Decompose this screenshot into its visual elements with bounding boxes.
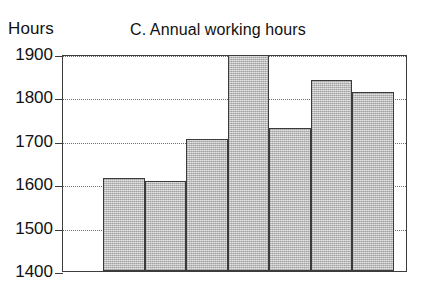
y-axis-unit-label: Hours bbox=[8, 19, 54, 39]
bar: Poland bbox=[311, 80, 353, 271]
bar-category-label: Finland bbox=[272, 164, 290, 271]
plot-area: GermanyFranceUKUSAFinlandPolandJapan bbox=[62, 55, 407, 272]
bar: Finland bbox=[269, 128, 311, 271]
bar-category-label: France bbox=[147, 164, 165, 271]
bar-category-label: USA bbox=[230, 164, 248, 271]
bar-category-label: Poland bbox=[313, 164, 331, 271]
y-axis-tick-label: 1900 bbox=[15, 45, 53, 65]
y-axis-tick-label: 1500 bbox=[15, 219, 53, 239]
y-axis-tick-label: 1600 bbox=[15, 175, 53, 195]
y-axis-tick bbox=[55, 56, 63, 57]
chart-title: C. Annual working hours bbox=[130, 21, 306, 39]
bar: Japan bbox=[352, 92, 394, 271]
bar-category-label: Germany bbox=[106, 164, 124, 271]
bars-layer: GermanyFranceUKUSAFinlandPolandJapan bbox=[63, 56, 406, 271]
y-axis-tick bbox=[55, 99, 63, 100]
y-axis-tick bbox=[55, 230, 63, 231]
y-axis-tick bbox=[55, 186, 63, 187]
bar: France bbox=[145, 181, 187, 271]
bar: UK bbox=[186, 139, 228, 271]
bar-category-label: Japan bbox=[355, 164, 373, 271]
bar-category-label: UK bbox=[189, 164, 207, 271]
y-axis-tick bbox=[55, 143, 63, 144]
y-axis-tick-label: 1700 bbox=[15, 132, 53, 152]
y-axis-tick-label: 1800 bbox=[15, 88, 53, 108]
y-axis-tick bbox=[55, 273, 63, 274]
chart-figure: Hours C. Annual working hours 1900180017… bbox=[0, 0, 430, 297]
y-axis-tick-labels: 190018001700160015001400 bbox=[0, 55, 53, 272]
bar: Germany bbox=[103, 178, 145, 271]
bar: USA bbox=[228, 56, 270, 271]
y-axis-tick-label: 1400 bbox=[15, 262, 53, 282]
